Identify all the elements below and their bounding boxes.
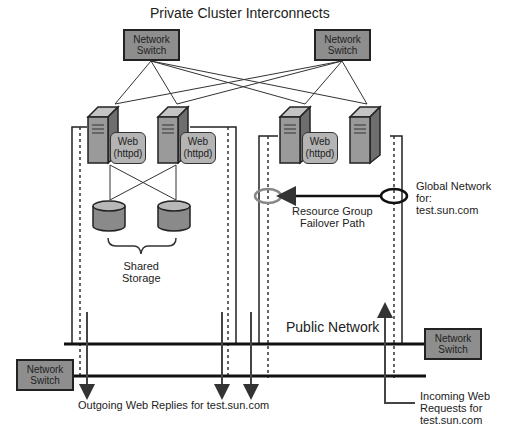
- incoming-arrow: [385, 310, 415, 403]
- web-httpd-label-2: Web (httpd): [180, 132, 216, 164]
- network-switch-bottom-left: Network Switch: [16, 359, 74, 391]
- storage-brace: [108, 238, 176, 254]
- outgoing-arrows: [87, 312, 251, 392]
- network-switch-top-right: Network Switch: [314, 29, 371, 61]
- web-httpd-label-1: Web (httpd): [110, 132, 146, 164]
- left-dashed-lines: [80, 127, 228, 378]
- incoming-requests-label: Incoming Web Requests for test.sun.com: [420, 390, 490, 426]
- storage-disk-icons: [93, 201, 190, 231]
- public-network-label: Public Network: [286, 320, 379, 335]
- diagram-title: Private Cluster Interconnects: [150, 6, 330, 21]
- storage-links: [110, 165, 176, 200]
- network-switch-right: Network Switch: [424, 328, 482, 360]
- outgoing-replies-label: Outgoing Web Replies for test.sun.com: [78, 399, 269, 411]
- global-network-label: Global Network for: test.sun.com: [416, 180, 491, 216]
- failover-path-label: Resource Group Failover Path: [292, 205, 373, 229]
- right-node-boundary: [259, 136, 402, 345]
- web-httpd-label-3: Web (httpd): [302, 132, 338, 164]
- interconnect-lines: [115, 61, 367, 104]
- right-dashed-lines: [268, 136, 394, 378]
- shared-storage-label: Shared Storage: [122, 260, 161, 284]
- network-switch-top-left: Network Switch: [123, 29, 180, 61]
